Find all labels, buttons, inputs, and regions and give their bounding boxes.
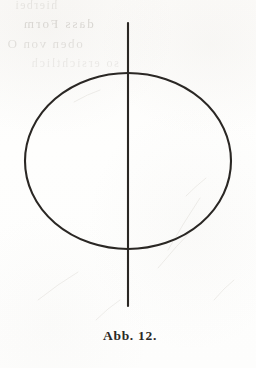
ellipse-outline	[25, 73, 231, 249]
paper-smudges	[0, 0, 256, 368]
show-through-line-2: dass Form	[22, 16, 94, 32]
paper-texture	[0, 0, 256, 368]
figure-caption: Abb. 12.	[0, 328, 256, 344]
figure-drawing	[0, 0, 256, 368]
show-through-line-1: hierbei	[14, 0, 57, 13]
scanned-book-page: hierbei dass Form oben von O so ersichtl…	[0, 0, 256, 368]
show-through-line-4: so ersichtlich	[30, 56, 119, 71]
show-through-line-3: oben von O	[6, 36, 83, 52]
